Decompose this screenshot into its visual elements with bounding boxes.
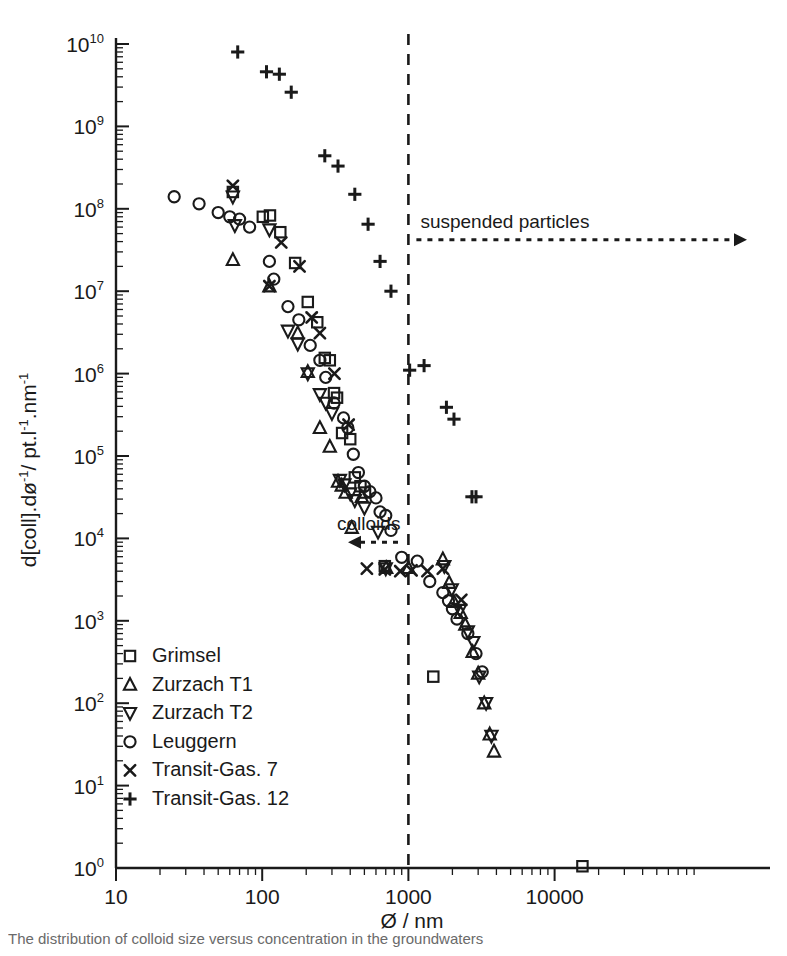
legend-item-leuggern[interactable]: Leuggern — [124, 730, 236, 752]
y-tick-label: 102 — [73, 690, 104, 715]
data-point — [348, 188, 361, 201]
series-transit-gas-12 — [231, 45, 482, 503]
legend-item-transit-gas-7[interactable]: Transit-Gas. 7 — [125, 758, 278, 780]
annotation-label: colloids — [337, 513, 400, 534]
data-point — [424, 576, 435, 587]
data-point — [326, 408, 338, 420]
data-point — [456, 595, 466, 605]
data-point — [264, 256, 275, 267]
chart-annotations: suspended particlescolloids — [337, 211, 747, 549]
legend-item-grimsel[interactable]: Grimsel — [125, 644, 221, 666]
data-point — [169, 191, 180, 202]
annotation-suspended-particles: suspended particles — [416, 211, 747, 247]
series-transit-gas-7 — [228, 181, 467, 605]
data-point — [488, 745, 500, 757]
series-leuggern — [169, 191, 488, 677]
y-tick-label: 107 — [73, 278, 104, 303]
y-tick-label: 100 — [73, 855, 104, 880]
data-point — [331, 159, 344, 172]
x-axis-tick-labels: 10100100010000 — [104, 885, 583, 908]
x-tick-label: 1000 — [385, 885, 432, 908]
y-tick-label: 105 — [73, 443, 104, 468]
data-point — [577, 861, 587, 871]
data-point — [422, 566, 432, 576]
series-grimsel — [228, 187, 588, 872]
legend-item-transit-gas-12[interactable]: Transit-Gas. 12 — [123, 787, 289, 809]
y-tick-label: 101 — [73, 773, 104, 798]
data-point — [275, 227, 285, 237]
y-tick-label: 108 — [73, 196, 104, 221]
data-point — [440, 401, 453, 414]
data-point — [348, 449, 359, 460]
data-point — [314, 421, 326, 433]
data-point — [361, 218, 374, 231]
data-point — [318, 149, 331, 162]
data-point — [260, 65, 273, 78]
data-point — [285, 86, 298, 99]
data-point — [193, 198, 204, 209]
data-point — [244, 221, 255, 232]
x-tick-label: 10 — [104, 885, 127, 908]
data-point — [231, 45, 244, 58]
y-axis-tick-labels: 1001011021031041051061071081091010 — [66, 31, 104, 880]
y-axis-title: d[coll].dø-1/ pt.l-1.nm-1 — [16, 373, 40, 568]
data-point — [428, 671, 438, 681]
legend-label: Leuggern — [152, 730, 237, 752]
legend-label: Transit-Gas. 7 — [152, 758, 278, 780]
annotation-colloids: colloids — [337, 513, 400, 549]
data-point — [292, 339, 304, 351]
y-tick-label: 106 — [73, 361, 104, 386]
figure-container: 1001011021031041051061071081091010 10100… — [0, 0, 787, 956]
legend-label: Zurzach T1 — [152, 673, 253, 695]
data-point — [273, 68, 286, 81]
legend-item-zurzach-t2[interactable]: Zurzach T2 — [124, 701, 253, 723]
legend-label: Zurzach T2 — [152, 701, 253, 723]
data-point — [447, 413, 460, 426]
series-zurzach-t1 — [227, 253, 500, 756]
x-tick-label: 10000 — [525, 885, 583, 908]
legend-label: Grimsel — [152, 644, 221, 666]
data-point — [282, 301, 293, 312]
annotation-label: suspended particles — [420, 211, 589, 232]
data-point — [227, 253, 239, 265]
arrowhead-right — [734, 233, 747, 246]
legend-marker-square — [125, 651, 135, 661]
legend-marker-circle — [124, 736, 135, 747]
legend-item-zurzach-t1[interactable]: Zurzach T1 — [124, 673, 253, 695]
y-tick-label: 103 — [73, 608, 104, 633]
y-axis-title-text: d[coll].dø-1/ pt.l-1.nm-1 — [16, 373, 40, 568]
data-point — [384, 285, 397, 298]
legend-marker-plus — [123, 792, 136, 805]
data-point — [443, 576, 455, 588]
y-tick-label: 104 — [73, 525, 104, 550]
figure-caption: The distribution of colloid size versus … — [8, 930, 783, 952]
data-point — [263, 224, 275, 236]
arrowhead-left — [348, 536, 361, 549]
legend-marker-triangle-up — [124, 678, 136, 690]
data-point — [305, 340, 316, 351]
y-tick-label: 109 — [73, 113, 104, 138]
data-point — [293, 314, 304, 325]
scatter-plot: 1001011021031041051061071081091010 10100… — [0, 0, 787, 956]
x-axis-title: Ø / nm — [380, 909, 443, 932]
x-axis — [116, 868, 770, 881]
legend-marker-x — [125, 765, 135, 775]
data-point — [213, 207, 224, 218]
data-point — [303, 297, 313, 307]
data-point — [417, 359, 430, 372]
data-point — [403, 364, 416, 377]
legend-marker-triangle-down — [124, 708, 136, 720]
data-point — [396, 552, 407, 563]
data-point — [276, 237, 286, 247]
x-tick-label: 100 — [245, 885, 280, 908]
data-point — [315, 328, 325, 338]
chart-legend: GrimselZurzach T1Zurzach T2LeuggernTrans… — [123, 644, 289, 809]
data-point — [373, 255, 386, 268]
y-axis — [116, 38, 129, 868]
legend-label: Transit-Gas. 12 — [152, 787, 289, 809]
data-point — [324, 440, 336, 452]
data-point — [362, 563, 372, 573]
y-tick-label: 1010 — [66, 31, 104, 56]
